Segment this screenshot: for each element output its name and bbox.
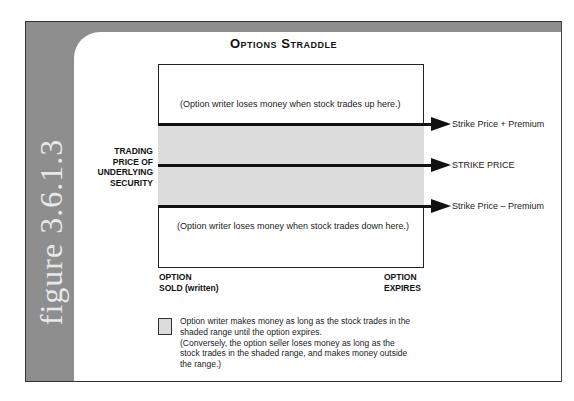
- y-axis-label-line: UNDERLYING: [95, 167, 153, 178]
- figure-title: Options Straddle: [230, 36, 337, 51]
- legend-text: Option writer makes money as long as the…: [180, 316, 440, 370]
- legend-line: Option writer makes money as long as the…: [180, 316, 440, 327]
- strike-price-label: STRIKE PRICE: [452, 160, 515, 170]
- x-axis-start-line: SOLD (written): [159, 283, 219, 294]
- lower-loss-note: (Option writer loses money when stock tr…: [177, 221, 409, 231]
- x-axis-start-line: OPTION: [159, 272, 219, 283]
- upper-loss-note: (Option writer loses money when stock tr…: [180, 99, 401, 109]
- legend-line: stock trades in the shaded range, and ma…: [180, 348, 440, 359]
- x-axis-end-line: EXPIRES: [384, 283, 421, 294]
- legend-swatch: [158, 318, 172, 335]
- arrow-right-icon: [431, 117, 451, 131]
- y-axis-label-line: TRADING: [95, 146, 153, 157]
- upper-breakeven-line: [158, 123, 436, 126]
- x-axis-end-label: OPTION EXPIRES: [384, 272, 421, 293]
- arrow-right-icon: [431, 199, 451, 213]
- legend-line: shaded range until the option expires.: [180, 327, 440, 338]
- y-axis-label: TRADING PRICE OF UNDERLYING SECURITY: [95, 146, 153, 188]
- figure-number-sidebar: figure 3.6.1.3: [30, 102, 72, 362]
- y-axis-label-line: PRICE OF: [95, 157, 153, 168]
- lower-breakeven-line: [158, 205, 436, 208]
- figure-number: figure 3.6.1.3: [33, 139, 70, 325]
- upper-breakeven-label: Strike Price + Premium: [452, 119, 544, 129]
- strike-price-line: [158, 164, 436, 167]
- legend-line: (Conversely, the option seller loses mon…: [180, 338, 440, 349]
- legend-line: the range.): [180, 359, 440, 370]
- x-axis-start-label: OPTION SOLD (written): [159, 272, 219, 293]
- x-axis-end-line: OPTION: [384, 272, 421, 283]
- y-axis-label-line: SECURITY: [95, 178, 153, 189]
- lower-breakeven-label: Strike Price – Premium: [452, 201, 544, 211]
- arrow-right-icon: [431, 158, 451, 172]
